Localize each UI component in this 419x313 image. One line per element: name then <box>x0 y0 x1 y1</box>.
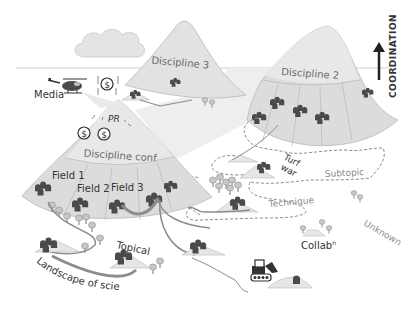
svg-text:$: $ <box>101 130 107 140</box>
label-coordination: COORDINATION <box>388 14 398 98</box>
mound-near-discipline-3 <box>122 90 150 100</box>
bulldozer-mound <box>268 276 312 289</box>
cloud <box>75 30 145 58</box>
left-mound <box>35 238 80 253</box>
dollar-coin-2: $ <box>98 128 110 140</box>
label-field-1: Field 1 <box>52 170 85 181</box>
label-collab: Collabn <box>301 239 336 251</box>
label-subtopic: Subtopic <box>325 167 365 179</box>
label-field-2: Field 2 <box>77 183 110 194</box>
label-unknown: Unknown <box>362 218 403 248</box>
coordination-arrow: COORDINATION <box>373 14 398 98</box>
collab-mound <box>300 220 332 236</box>
technique-mound <box>216 197 258 212</box>
label-technique: Technique <box>267 195 314 209</box>
dollar-coin-cloud: $ <box>101 78 113 90</box>
svg-text:$: $ <box>104 80 110 90</box>
landscape-of-science-diagram: $ Discipline 3 Media Discipline 2 <box>0 0 419 313</box>
label-field-3: Field 3 <box>111 182 144 193</box>
tree-cluster <box>210 174 242 195</box>
dollar-coin-1: $ <box>78 127 90 139</box>
right-mound <box>182 240 225 255</box>
mountain-discipline-3: Discipline 3 <box>125 21 246 98</box>
label-media: Media <box>34 89 64 100</box>
mountain-discipline-2: Discipline 2 <box>247 26 398 146</box>
bulldozer-icon <box>251 260 278 281</box>
svg-text:$: $ <box>81 129 87 139</box>
label-pr: PR <box>108 114 120 124</box>
